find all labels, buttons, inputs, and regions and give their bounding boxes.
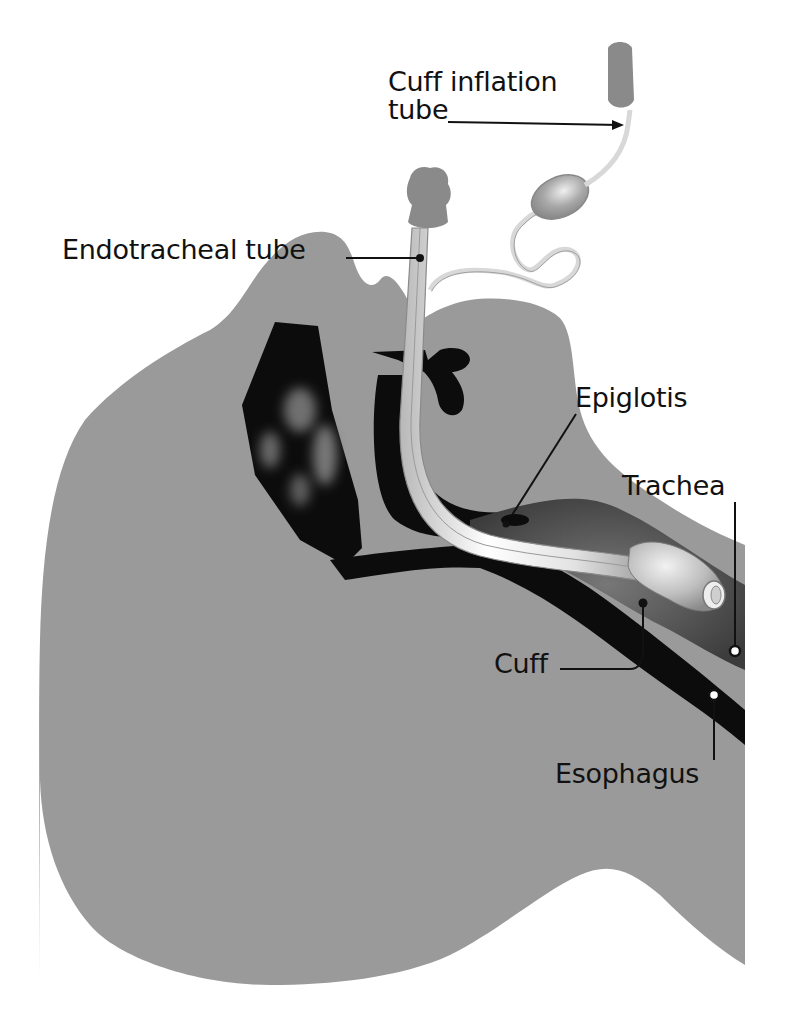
inflation-line [430, 212, 578, 290]
label-epiglotis: Epiglotis [575, 384, 687, 412]
tube-connector [407, 167, 451, 228]
arrowhead-icon [612, 120, 624, 130]
pilot-line-upper [585, 110, 630, 185]
intubation-diagram: Cuff inflation tube Endotracheal tube Ep… [0, 0, 788, 1010]
pilot-balloon [524, 166, 595, 228]
label-endotracheal-tube: Endotracheal tube [62, 236, 306, 264]
label-cuff: Cuff [494, 650, 548, 678]
label-esophagus: Esophagus [555, 760, 699, 788]
label-trachea: Trachea [622, 472, 725, 500]
label-cuff-inflation-tube: Cuff inflation tube [388, 68, 557, 124]
inflation-valve [608, 42, 634, 108]
anatomy-illustration [0, 0, 788, 1010]
